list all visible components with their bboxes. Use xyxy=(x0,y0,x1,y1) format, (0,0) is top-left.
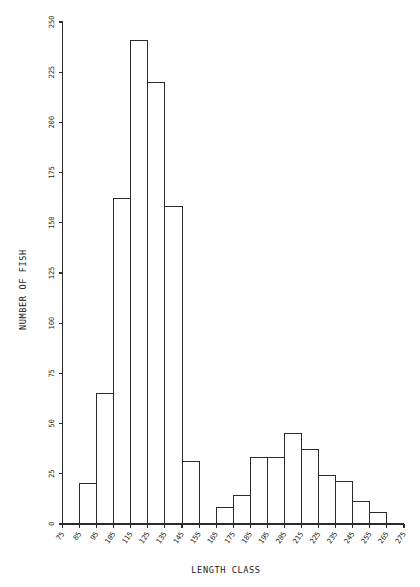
y-tick-label: 50 xyxy=(47,419,56,427)
y-tick-label: 100 xyxy=(47,317,56,329)
x-tick-label: 245 xyxy=(342,530,356,545)
histogram-bar xyxy=(302,450,319,524)
x-tick-label: 275 xyxy=(393,530,407,545)
y-tick-label: 0 xyxy=(47,522,56,526)
histogram-bar xyxy=(165,207,182,524)
bar-series xyxy=(80,40,387,524)
x-tick-label: 75 xyxy=(54,530,66,542)
x-tick-label: 235 xyxy=(325,530,339,545)
x-tick-label: 175 xyxy=(222,530,236,545)
fish-length-histogram: 0255075100125150175200225250 75859510511… xyxy=(0,0,420,587)
x-tick-label: 255 xyxy=(359,530,373,545)
y-tick-label: 225 xyxy=(47,66,56,78)
y-axis-tick-labels: 0255075100125150175200225250 xyxy=(47,16,56,526)
histogram-bar xyxy=(131,40,148,524)
y-tick-label: 150 xyxy=(47,217,56,229)
histogram-bar xyxy=(114,199,131,524)
x-tick-label: 215 xyxy=(291,530,305,545)
histogram-bar xyxy=(250,458,267,524)
histogram-bar xyxy=(267,458,284,524)
histogram-bar xyxy=(353,502,370,524)
y-tick-label: 125 xyxy=(47,267,56,279)
x-tick-label: 225 xyxy=(308,530,322,545)
histogram-bar xyxy=(216,508,233,524)
histogram-bar xyxy=(233,496,250,524)
histogram-bar xyxy=(319,476,336,524)
y-axis-ticks xyxy=(59,22,63,524)
y-axis-title: NUMBER OF FISH xyxy=(18,249,28,330)
histogram-bar xyxy=(148,82,165,524)
histogram-bar xyxy=(336,482,353,524)
x-tick-label: 195 xyxy=(257,530,271,545)
x-tick-label: 155 xyxy=(188,530,202,545)
histogram-bar xyxy=(80,484,97,524)
x-tick-label: 205 xyxy=(274,530,288,545)
x-tick-label: 135 xyxy=(154,530,168,545)
histogram-bar xyxy=(370,512,387,524)
y-tick-label: 75 xyxy=(47,369,56,377)
x-tick-label: 165 xyxy=(205,530,219,545)
x-tick-label: 115 xyxy=(120,530,134,545)
x-tick-label: 105 xyxy=(103,530,117,545)
x-axis-tick-labels: 7585951051151251351451551651751851952052… xyxy=(54,530,408,545)
histogram-bar xyxy=(285,434,302,524)
x-tick-label: 185 xyxy=(239,530,253,545)
x-tick-label: 265 xyxy=(376,530,390,545)
x-axis-ticks xyxy=(63,524,405,528)
y-tick-label: 200 xyxy=(47,116,56,128)
x-tick-label: 125 xyxy=(137,530,151,545)
y-tick-label: 25 xyxy=(47,470,56,478)
x-axis-title: LENGTH CLASS xyxy=(191,565,260,575)
histogram-bar xyxy=(97,394,114,525)
x-tick-label: 85 xyxy=(71,530,83,542)
histogram-bar xyxy=(182,462,199,524)
chart-canvas: 0255075100125150175200225250 75859510511… xyxy=(0,0,420,587)
x-tick-label: 145 xyxy=(171,530,185,545)
y-tick-label: 250 xyxy=(47,16,56,28)
x-tick-label: 95 xyxy=(88,530,100,542)
y-tick-label: 175 xyxy=(47,166,56,178)
